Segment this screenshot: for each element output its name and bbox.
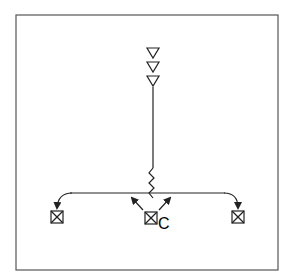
center-arrow-up-left [132,198,143,210]
center-fixture-icon [145,212,157,224]
left-fixture-icon [51,211,63,223]
triangle-stack-icon [147,48,159,86]
center-arrow-up-right [159,198,170,210]
right-branch-arrow [224,193,238,208]
diagram-frame [16,15,278,270]
center-fixture-label: C [158,216,170,232]
lighting-diagram [0,0,293,279]
left-branch-arrow [57,193,72,208]
right-fixture-icon [232,211,244,223]
